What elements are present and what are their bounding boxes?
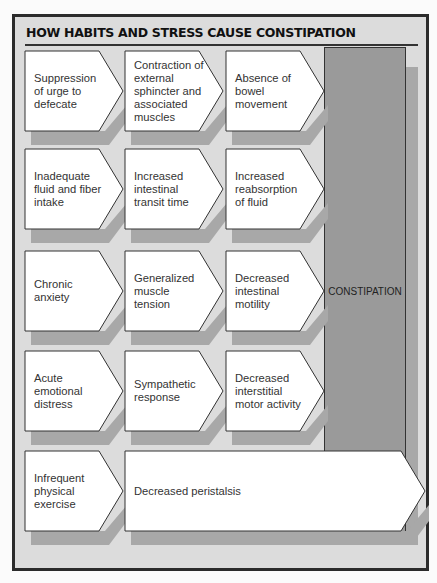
diagram-frame: HOW HABITS AND STRESS CAUSE CONSTIPATION… <box>12 14 429 571</box>
flow-node-label: Generalized muscle tension <box>134 272 204 311</box>
flow-node: Absence of bowel movement <box>226 51 324 131</box>
flow-node-label: Chronic anxiety <box>34 278 104 304</box>
flow-node-label: Inadequate fluid and fiber intake <box>34 170 104 209</box>
flow-node-label: Contraction of external sphincter and as… <box>134 59 204 124</box>
flow-node: Infrequent physical exercise <box>25 451 123 531</box>
flow-node: Chronic anxiety <box>25 251 123 331</box>
flow-node-label: Acute emotional distress <box>34 372 104 411</box>
flow-node-label: Decreased intestinal motility <box>235 272 305 311</box>
flow-node: Sympathetic response <box>125 351 223 431</box>
flow-node: Contraction of external sphincter and as… <box>125 51 223 131</box>
flow-node: Inadequate fluid and fiber intake <box>25 149 123 229</box>
constipation-label: CONSTIPATION <box>325 286 405 297</box>
flow-node: Acute emotional distress <box>25 351 123 431</box>
flow-node-label: Decreased interstitial motor activity <box>235 372 305 411</box>
flow-node: Generalized muscle tension <box>125 251 223 331</box>
diagram-title: HOW HABITS AND STRESS CAUSE CONSTIPATION <box>26 25 356 40</box>
flow-node: Decreased peristalsis <box>125 451 425 531</box>
flow-node-label: Infrequent physical exercise <box>34 472 104 511</box>
flow-node: Decreased interstitial motor activity <box>226 351 324 431</box>
flow-node-label: Suppression of urge to defecate <box>34 72 104 111</box>
flow-node-label: Sympathetic response <box>134 378 204 404</box>
flow-node-label: Increased reabsorption of fluid <box>235 170 305 209</box>
flow-node-label: Increased intestinal transit time <box>134 170 204 209</box>
flow-node: Increased intestinal transit time <box>125 149 223 229</box>
flow-node: Suppression of urge to defecate <box>25 51 123 131</box>
flow-node-label: Absence of bowel movement <box>235 72 305 111</box>
title-rule <box>25 44 418 46</box>
flow-node: Decreased intestinal motility <box>226 251 324 331</box>
flow-node: Increased reabsorption of fluid <box>226 149 324 229</box>
flow-node-label: Decreased peristalsis <box>134 485 406 498</box>
